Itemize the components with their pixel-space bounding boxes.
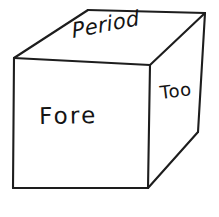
cube-sketch-canvas: Period Fore Too [0, 0, 219, 217]
edge-front-left-vertical [13, 58, 14, 188]
right-face-label: Too [159, 78, 193, 103]
front-face-label: Fore [39, 102, 98, 129]
